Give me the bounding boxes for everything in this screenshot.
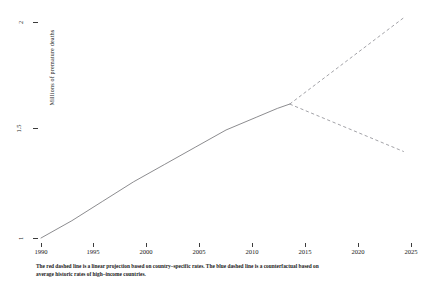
x-tick-mark-1995: [93, 243, 94, 247]
x-tick-label-2005: 2005: [179, 248, 219, 255]
x-tick-label-1995: 1995: [73, 248, 113, 255]
caption-line-2: average historic rates of high–income co…: [36, 271, 376, 279]
caption-line-1: The red dashed line is a linear projecti…: [36, 263, 376, 271]
x-tick-mark-2005: [199, 243, 200, 247]
chart-caption: The red dashed line is a linear projecti…: [36, 263, 376, 278]
x-tick-mark-2000: [146, 243, 147, 247]
y-tick-mark-2: [33, 22, 38, 23]
x-tick-mark-2015: [305, 243, 306, 247]
x-tick-label-2025: 2025: [391, 248, 431, 255]
series-1: [290, 18, 404, 104]
chart-plot-svg: [0, 0, 435, 281]
y-axis-title: Millions of premature deaths: [48, 8, 55, 128]
chart-figure: Millions of premature deaths 2 1.5 1 199…: [0, 0, 435, 281]
y-tick-mark-1point5: [33, 128, 38, 129]
x-tick-mark-2020: [358, 243, 359, 247]
x-tick-mark-1990: [41, 243, 42, 247]
series-0: [41, 104, 290, 238]
x-tick-label-2000: 2000: [126, 248, 166, 255]
y-tick-label-1: 1: [17, 229, 24, 249]
x-tick-label-1990: 1990: [21, 248, 61, 255]
x-tick-mark-2010: [252, 243, 253, 247]
x-tick-label-2010: 2010: [232, 248, 272, 255]
y-tick-mark-1: [33, 238, 38, 239]
series-2: [290, 104, 404, 152]
x-tick-label-2020: 2020: [338, 248, 378, 255]
x-tick-label-2015: 2015: [285, 248, 325, 255]
x-tick-mark-2025: [411, 243, 412, 247]
y-tick-label-1point5: 1.5: [15, 119, 22, 139]
y-tick-label-2: 2: [17, 13, 24, 33]
